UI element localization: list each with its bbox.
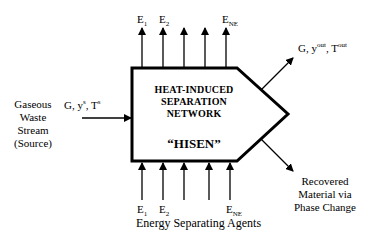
bottom-agent-2-base: E bbox=[159, 203, 166, 215]
box-title-line-3: NETWORK bbox=[140, 108, 248, 120]
bottom-agent-ne-base: E bbox=[226, 203, 233, 215]
bottom-agent-label-2: E2 bbox=[159, 203, 169, 216]
top-agent-ne-sub: NE bbox=[229, 20, 238, 28]
outlet-gas-main: G, y bbox=[298, 42, 317, 54]
recovered-line-2: Material via bbox=[280, 188, 365, 201]
recovered-material-arrow bbox=[261, 139, 293, 171]
source-label: Gaseous Waste Stream (Source) bbox=[2, 98, 64, 150]
source-stream-main: G, y bbox=[64, 99, 83, 111]
outlet-gas-arrow bbox=[261, 58, 293, 90]
energy-separating-agents-caption: Energy Separating Agents bbox=[136, 217, 261, 230]
outlet-gas-variables: G, yout, Tout bbox=[298, 42, 347, 55]
top-agent-arrows bbox=[142, 28, 226, 67]
top-agent-1-sub: 1 bbox=[144, 20, 148, 28]
source-stream-variables: G, ys, Ts bbox=[64, 99, 100, 112]
source-label-line-3: Stream bbox=[2, 124, 64, 137]
top-agent-label-2: E2 bbox=[159, 13, 169, 26]
box-title-line-2: SEPARATION bbox=[140, 96, 248, 108]
outlet-gas-mid: , T bbox=[326, 42, 338, 54]
box-title-line-1: HEAT-INDUCED bbox=[140, 84, 248, 96]
bottom-agent-1-base: E bbox=[137, 203, 144, 215]
source-label-line-1: Gaseous bbox=[2, 98, 64, 111]
bottom-agent-label-ne: ENE bbox=[226, 203, 242, 216]
recovered-line-3: Phase Change bbox=[280, 201, 365, 214]
outlet-gas-sup-2: out bbox=[338, 41, 347, 49]
top-agent-ne-base: E bbox=[222, 13, 229, 25]
outlet-gas-sup-1: out bbox=[317, 41, 326, 49]
box-name: “HISEN” bbox=[140, 136, 248, 152]
source-stream-sup-2: s bbox=[98, 98, 101, 106]
top-agent-label-ne: ENE bbox=[222, 13, 238, 26]
recovered-material-label: Recovered Material via Phase Change bbox=[280, 175, 365, 214]
top-agent-1-base: E bbox=[137, 13, 144, 25]
source-label-line-2: Waste bbox=[2, 111, 64, 124]
top-agent-2-sub: 2 bbox=[166, 20, 170, 28]
bottom-agent-label-1: E1 bbox=[137, 203, 147, 216]
source-label-line-4: (Source) bbox=[2, 137, 64, 150]
top-agent-2-base: E bbox=[159, 13, 166, 25]
source-stream-mid: , T bbox=[86, 99, 98, 111]
top-agent-label-1: E1 bbox=[137, 13, 147, 26]
bottom-agent-arrows bbox=[142, 163, 230, 200]
recovered-line-1: Recovered bbox=[280, 175, 365, 188]
